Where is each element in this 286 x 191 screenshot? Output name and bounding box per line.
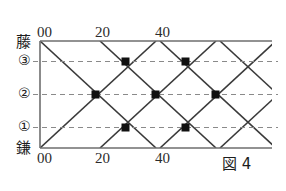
crossing-marker bbox=[122, 124, 130, 132]
crossing-marker bbox=[122, 58, 130, 66]
top-axis-tick-00: 00 bbox=[37, 24, 52, 41]
station-label-top-fuji: 藤 bbox=[16, 30, 31, 51]
figure-container: 藤 鎌 ③ ② ① 00 20 40 00 20 40 図 4 bbox=[0, 0, 286, 191]
crossing-marker bbox=[212, 91, 220, 99]
row-label-3: ③ bbox=[18, 52, 31, 68]
crossing-markers-group bbox=[92, 58, 220, 132]
bottom-axis-tick-20: 20 bbox=[95, 150, 110, 167]
crossing-marker bbox=[182, 58, 190, 66]
row-label-2: ② bbox=[18, 85, 31, 101]
crossing-marker bbox=[152, 91, 160, 99]
row-label-1: ① bbox=[18, 118, 31, 134]
top-axis-tick-40: 40 bbox=[155, 24, 170, 41]
crossing-marker bbox=[92, 91, 100, 99]
bottom-axis-tick-40: 40 bbox=[155, 150, 170, 167]
top-axis-tick-20: 20 bbox=[95, 24, 110, 41]
figure-caption: 図 4 bbox=[222, 152, 251, 173]
crossing-marker bbox=[182, 124, 190, 132]
station-label-bottom-kamakura: 鎌 bbox=[16, 136, 31, 157]
bottom-axis-tick-00: 00 bbox=[37, 150, 52, 167]
